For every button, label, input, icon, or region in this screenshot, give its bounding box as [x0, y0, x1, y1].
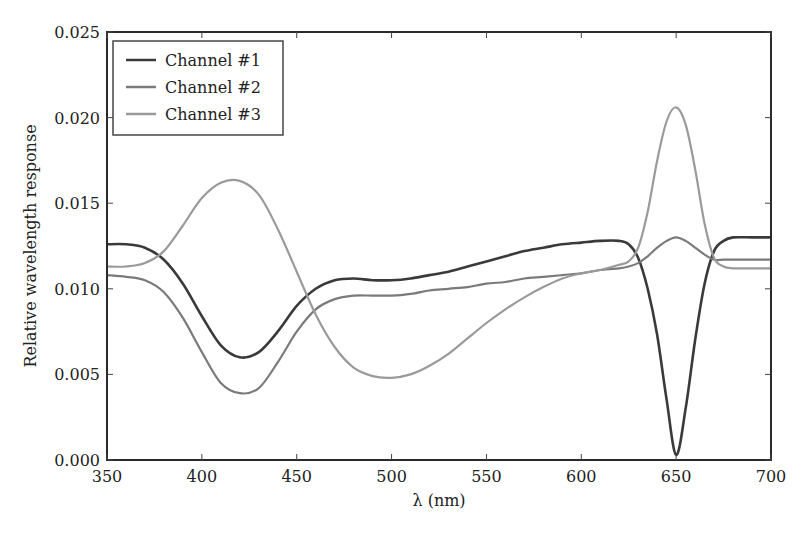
- line-chart: 350400450500550600650700 0.0000.0050.010…: [0, 0, 803, 533]
- x-axis-label: λ (nm): [412, 491, 465, 510]
- series-layer: [107, 107, 771, 455]
- series-line-channel-1: [107, 237, 771, 455]
- x-tick-label: 450: [281, 467, 312, 486]
- legend-label: Channel #3: [165, 105, 261, 124]
- x-tick-label: 500: [376, 467, 407, 486]
- y-tick-label: 0.020: [54, 109, 100, 128]
- series-line-channel-2: [107, 237, 771, 393]
- series-line-channel-3: [107, 107, 771, 378]
- legend-label: Channel #1: [165, 51, 261, 70]
- y-tick-label: 0.025: [54, 23, 100, 42]
- y-tick-label: 0.005: [54, 365, 100, 384]
- x-tick-label: 400: [187, 467, 218, 486]
- x-tick-label: 650: [661, 467, 692, 486]
- x-tick-label: 700: [756, 467, 787, 486]
- legend-label: Channel #2: [165, 78, 261, 97]
- y-axis-label: Relative wavelength response: [21, 124, 40, 367]
- y-tick-label: 0.010: [54, 280, 100, 299]
- x-tick-label: 550: [471, 467, 502, 486]
- x-tick-label: 600: [566, 467, 597, 486]
- legend: Channel #1 Channel #2 Channel #3: [113, 41, 283, 135]
- y-tick-label: 0.000: [54, 451, 100, 470]
- y-tick-label: 0.015: [54, 194, 100, 213]
